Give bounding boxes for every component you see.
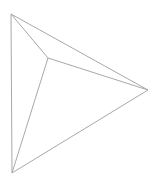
pyramid-diagram xyxy=(0,0,164,182)
diagram-edges xyxy=(11,14,148,173)
edge-top-right xyxy=(11,14,148,90)
edge-apex-bottom xyxy=(12,58,48,173)
edge-apex-top xyxy=(11,14,48,58)
edge-right-bottom xyxy=(12,90,148,173)
edge-bottom-top xyxy=(11,14,12,173)
